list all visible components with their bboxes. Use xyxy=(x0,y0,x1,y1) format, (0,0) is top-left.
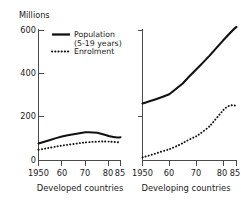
left-xtick-label-1950: 1950 xyxy=(27,168,50,178)
right-xtick-label-1950: 1950 xyxy=(131,168,154,178)
right-xtick-label-85: 85 xyxy=(228,168,241,178)
y-axis-unit-label: Millions xyxy=(19,10,50,20)
left-xtick-label-85: 85 xyxy=(113,168,127,178)
chart-figure: Millions 600 400 200 0 Population (5-19 … xyxy=(0,0,241,209)
left-enrolment-line xyxy=(39,142,121,150)
legend-enrolment-label: Enrolment xyxy=(74,47,114,56)
left-panel-title: Developed countries xyxy=(24,183,136,193)
left-xtick-label-60: 60 xyxy=(55,168,69,178)
left-ytick-label-0: 0 xyxy=(16,155,36,165)
left-ytick-label-400: 400 xyxy=(16,68,36,78)
left-xtick-label-70: 70 xyxy=(78,168,92,178)
right-xtick-label-60: 60 xyxy=(162,168,176,178)
left-ytick-label-200: 200 xyxy=(16,111,36,121)
right-population-line xyxy=(143,27,237,104)
left-ytick-label-600: 600 xyxy=(16,25,36,35)
panel-developing xyxy=(138,27,237,166)
right-xtick-label-80: 80 xyxy=(215,168,229,178)
chart-legend xyxy=(52,35,70,52)
right-enrolment-line xyxy=(143,105,237,157)
right-panel-title: Developing countries xyxy=(130,183,241,193)
legend-population-label: Population xyxy=(74,30,115,39)
right-xtick-label-70: 70 xyxy=(189,168,203,178)
